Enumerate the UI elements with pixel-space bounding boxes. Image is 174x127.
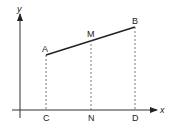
point-b-label: B bbox=[132, 16, 138, 26]
point-d-label: D bbox=[132, 113, 139, 123]
point-c-label: C bbox=[43, 113, 50, 123]
x-axis-label: x bbox=[159, 105, 165, 115]
point-m-label: M bbox=[87, 29, 95, 39]
point-a-label: A bbox=[42, 44, 48, 54]
coordinate-diagram: y x A M B C N D bbox=[0, 0, 174, 127]
y-axis-label: y bbox=[16, 4, 22, 14]
point-n-label: N bbox=[88, 113, 95, 123]
